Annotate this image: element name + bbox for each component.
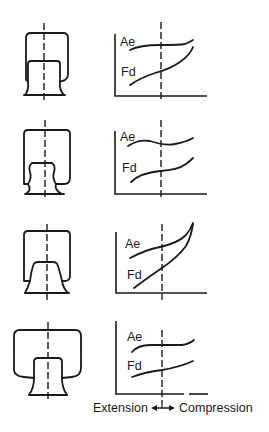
chart-3: Ae Fd [116, 223, 207, 300]
row-3: Ae Fd [24, 223, 207, 300]
x-axis-caption: Extension Compression [93, 401, 253, 415]
row-1: Ae Fd [24, 22, 207, 102]
air-spring-shape-3 [24, 224, 70, 300]
double-arrow-icon [151, 403, 175, 411]
curve-label-ae: Ae [127, 330, 142, 344]
row-4: Ae Fd Extension Compression [14, 321, 253, 415]
curve-label-ae: Ae [120, 35, 135, 49]
curve-label-ae: Ae [125, 237, 140, 251]
curve-label-ae: Ae [120, 130, 135, 144]
air-spring-shape-4 [14, 322, 81, 402]
chart-1: Ae Fd [115, 22, 207, 102]
fd-curve [134, 224, 193, 288]
curve-label-fd: Fd [127, 268, 142, 282]
compression-label: Compression [179, 401, 253, 415]
chart-2: Ae Fd [115, 120, 207, 200]
fd-curve [131, 158, 193, 182]
air-spring-diagram: Ae Fd Ae Fd [0, 0, 269, 432]
extension-label: Extension [93, 401, 148, 415]
curve-label-fd: Fd [127, 359, 142, 373]
row-2: Ae Fd [24, 120, 207, 200]
air-spring-shape-1 [24, 23, 68, 100]
air-spring-shape-2 [24, 120, 70, 200]
chart-4: Ae Fd [116, 321, 208, 403]
curve-label-fd: Fd [121, 65, 136, 79]
curve-label-fd: Fd [122, 161, 137, 175]
